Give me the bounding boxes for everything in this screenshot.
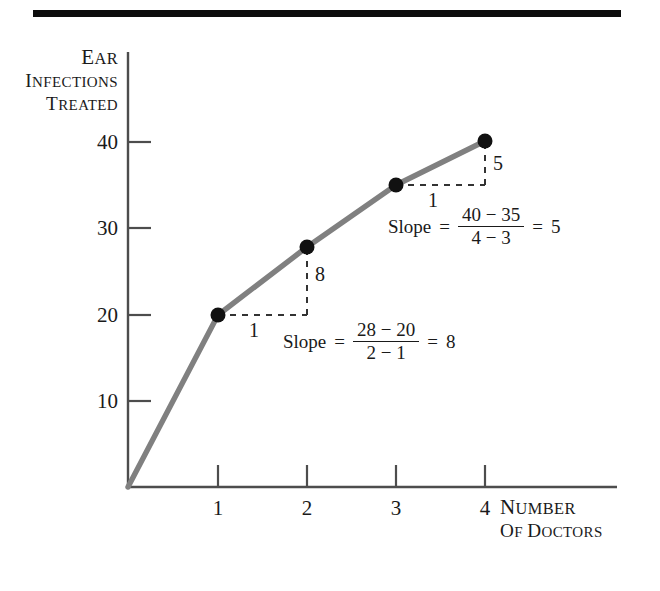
slope-3-4-equation: Slope = 40 − 35 4 − 3 = 5 — [388, 205, 560, 248]
slope-3-4-rise-label: 5 — [493, 152, 503, 175]
slope-1-2-numerator: 28 − 20 — [353, 320, 419, 342]
slope-1-2-word: Slope — [283, 331, 326, 353]
y-axis-title-line3-text: TREATED — [46, 97, 118, 113]
y-axis-title-line1-text: EAR — [81, 45, 118, 69]
x-axis-title-line1: NUMBER — [500, 496, 650, 520]
slope-3-4-numerator: 40 − 35 — [458, 205, 524, 227]
slope-1-2-equation: Slope = 28 − 20 2 − 1 = 8 — [283, 320, 455, 363]
slope-3-4-word: Slope — [388, 216, 431, 238]
x-axis-title-line2-text: OF DOCTORS — [500, 524, 603, 540]
figure-panel: EAR INFECTIONS TREATED NUMBER OF DOCTORS… — [0, 0, 660, 591]
slope-3-4-result: 5 — [551, 216, 561, 238]
slope-1-2-fraction: 28 − 20 2 − 1 — [353, 320, 419, 363]
data-point-1 — [211, 308, 226, 323]
slope-1-2-result: 8 — [446, 331, 456, 353]
slope-3-4-denominator: 4 − 3 — [468, 227, 515, 248]
y-axis-title-line3: TREATED — [8, 93, 118, 116]
y-axis-title-line2: INFECTIONS — [8, 70, 118, 93]
slope-3-4-equals: = — [436, 216, 453, 238]
data-point-2 — [300, 240, 315, 255]
data-point-3 — [389, 178, 404, 193]
slope-1-2-result-equals: = — [424, 331, 441, 353]
y-tick-label-10: 10 — [76, 389, 118, 414]
y-axis-title: EAR INFECTIONS TREATED — [8, 46, 118, 116]
x-tick-label-2: 2 — [287, 496, 327, 521]
slope-3-4-result-equals: = — [529, 216, 546, 238]
y-axis-title-line2-text: INFECTIONS — [25, 74, 118, 90]
x-axis-title-line1-text: NUMBER — [500, 495, 576, 519]
x-axis-title: NUMBER OF DOCTORS — [500, 496, 650, 543]
slope-3-4-fraction: 40 − 35 4 − 3 — [458, 205, 524, 248]
slope-1-2-denominator: 2 − 1 — [363, 342, 410, 363]
y-tick-label-40: 40 — [76, 130, 118, 155]
x-tick-label-1: 1 — [198, 496, 238, 521]
x-axis-title-line2: OF DOCTORS — [500, 520, 650, 543]
slope-1-2-equals: = — [331, 331, 348, 353]
slope-1-2-run-label: 1 — [249, 319, 259, 342]
x-tick-label-3: 3 — [376, 496, 416, 521]
y-axis-title-line1: EAR — [8, 46, 118, 70]
data-point-4 — [478, 134, 493, 149]
y-axis-ticks — [128, 142, 151, 401]
x-axis-ticks — [218, 465, 485, 487]
y-tick-label-20: 20 — [76, 303, 118, 328]
slope-1-2-rise-label: 8 — [315, 263, 325, 286]
x-tick-label-4: 4 — [465, 496, 505, 521]
y-tick-label-30: 30 — [76, 216, 118, 241]
